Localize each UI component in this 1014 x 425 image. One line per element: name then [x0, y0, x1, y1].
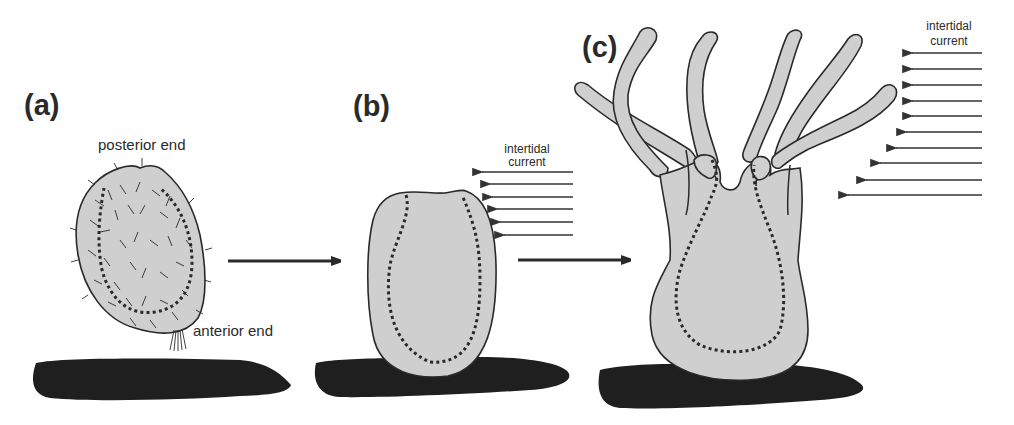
substrate-rock-a	[33, 358, 291, 400]
panel-label-b: (b)	[353, 90, 390, 122]
tentacle-2	[613, 28, 668, 177]
panel-b: (b) intertidal current	[315, 90, 630, 397]
tentacle-1	[575, 82, 698, 170]
tentacle-3	[687, 32, 718, 168]
panel-a: (a) posterior end anterior end	[24, 89, 340, 400]
current-label-b-line2: current	[508, 155, 546, 169]
panel-label-c: (c)	[582, 31, 617, 63]
development-diagram: (a) posterior end anterior end	[0, 0, 1014, 425]
anterior-end-label: anterior end	[193, 322, 273, 339]
planula-larva	[76, 166, 205, 333]
current-arrows-b	[482, 172, 573, 235]
current-label-c-line1: intertidal	[926, 19, 971, 33]
current-label-c-line2: current	[930, 34, 968, 48]
panel-c: (c) intertidal current	[575, 19, 982, 408]
panel-label-a: (a)	[24, 89, 59, 121]
current-arrows-c	[848, 53, 982, 195]
polyp-body-c	[650, 159, 808, 380]
tentacles	[575, 28, 897, 177]
current-label-b-line1: intertidal	[504, 142, 549, 156]
posterior-end-label: posterior end	[98, 136, 186, 153]
primary-polyp-b	[368, 190, 496, 377]
